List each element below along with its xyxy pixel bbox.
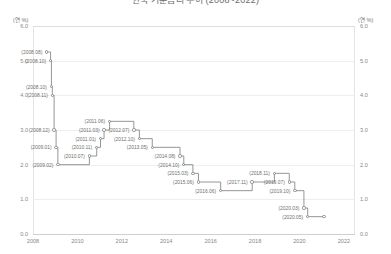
x-tick-2008: 2008	[18, 238, 48, 244]
data-point[interactable]	[56, 163, 59, 166]
data-point[interactable]	[191, 172, 194, 175]
x-tick-2010: 2010	[62, 238, 92, 244]
data-point-label: (2009.02)	[32, 162, 55, 167]
data-point-label: (2011.01)	[75, 136, 98, 141]
data-point-label: (2011.06)	[85, 119, 108, 124]
data-point[interactable]	[178, 154, 181, 157]
gridline-0.0	[33, 234, 355, 235]
y-tick-left-6.0: 6.0	[8, 23, 28, 29]
data-point-label: (2014.08)	[155, 154, 178, 159]
data-point-label: (2010.11)	[72, 145, 95, 150]
data-point-label: (2015.06)	[173, 180, 196, 185]
data-point[interactable]	[273, 172, 276, 175]
data-point[interactable]	[288, 180, 291, 183]
y-tick-right-1.0: 1.0	[360, 196, 382, 202]
data-point[interactable]	[250, 180, 253, 183]
data-point-label: (2019.10)	[269, 188, 292, 193]
x-tick-2022: 2022	[329, 238, 359, 244]
data-point-label: (2020.03)	[278, 206, 301, 211]
data-point-label: (2014.10)	[158, 162, 181, 167]
data-point[interactable]	[52, 128, 55, 131]
data-point-label: (2013.05)	[127, 145, 150, 150]
data-point-label: (2018.11)	[249, 171, 272, 176]
data-point-label: (2010.07)	[64, 154, 87, 159]
y-tick-left-3.0: 3.0	[8, 127, 28, 133]
chart-title: 한국 기준금리 추이 (2008~2022)	[0, 0, 391, 6]
data-point[interactable]	[132, 128, 135, 131]
data-point[interactable]	[302, 206, 305, 209]
data-point-label: (2016.06)	[195, 188, 218, 193]
data-point[interactable]	[54, 146, 57, 149]
data-point-label: (2015.03)	[167, 171, 190, 176]
y-tick-left-0.0: 0.0	[8, 231, 28, 237]
y-tick-right-5.0: 5.0	[360, 58, 382, 64]
y-tick-left-2.0: 2.0	[8, 162, 28, 168]
y-tick-right-4.0: 4.0	[360, 92, 382, 98]
x-tick-2012: 2012	[107, 238, 137, 244]
data-point-label: (2008.12)	[29, 128, 52, 133]
y-tick-left-4.0: 4.0	[8, 92, 28, 98]
data-point-label: (2011.03)	[79, 128, 102, 133]
data-point-label: (2020.05)	[282, 214, 305, 219]
y-tick-right-6.0: 6.0	[360, 23, 382, 29]
data-point[interactable]	[293, 189, 296, 192]
x-tick-2020: 2020	[284, 238, 314, 244]
data-point-label: (2012.07)	[108, 128, 131, 133]
data-point[interactable]	[151, 146, 154, 149]
data-point-label: (2008.11)	[27, 93, 50, 98]
y-tick-left-1.0: 1.0	[8, 196, 28, 202]
data-point[interactable]	[88, 154, 91, 157]
y-tick-right-0.0: 0.0	[360, 231, 382, 237]
data-point-label: (2019.07)	[264, 180, 287, 185]
data-point-label: (2009.01)	[31, 145, 54, 150]
y-tick-right-2.0: 2.0	[360, 162, 382, 168]
data-point[interactable]	[197, 180, 200, 183]
x-tick-2018: 2018	[240, 238, 270, 244]
data-point[interactable]	[322, 215, 325, 218]
data-point-label: (2008.08)	[21, 50, 44, 55]
data-point-label: (2008.10)	[26, 84, 49, 89]
data-point[interactable]	[102, 128, 105, 131]
x-tick-2014: 2014	[151, 238, 181, 244]
y-tick-left-5.0: 5.0	[8, 58, 28, 64]
data-point-label: (2008.10)	[25, 58, 48, 63]
data-point-label: (2017.11)	[227, 180, 250, 185]
data-point-label: (2012.10)	[114, 136, 137, 141]
data-point[interactable]	[51, 94, 54, 97]
plot-area: (2008.08)(2008.10)(2008.10)(2008.11)(200…	[33, 26, 355, 234]
x-tick-2016: 2016	[196, 238, 226, 244]
y-tick-right-3.0: 3.0	[360, 127, 382, 133]
